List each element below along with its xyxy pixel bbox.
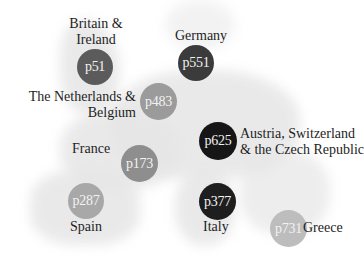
page-badge-italy[interactable]: p377 (199, 183, 236, 220)
label-line: & the Czech Republic (240, 142, 364, 158)
page-badge-netherlands-belgium[interactable]: p483 (140, 83, 177, 120)
label-line: Britain & (68, 16, 124, 32)
label-austria-switzerland-czech: Austria, Switzerland & the Czech Republi… (240, 126, 364, 158)
label-line: Ireland (68, 32, 124, 48)
label-netherlands-belgium: The Netherlands & Belgium (26, 89, 136, 121)
label-france: France (72, 141, 110, 157)
page-badge-austria-switzerland-czech[interactable]: p625 (199, 122, 237, 160)
page-badge-germany[interactable]: p551 (178, 45, 214, 81)
page-badge-spain[interactable]: p287 (68, 183, 104, 219)
page-badge-france[interactable]: p173 (121, 145, 158, 182)
page-badge-greece[interactable]: p731 (270, 210, 307, 247)
label-italy: Italy (203, 219, 229, 235)
page-badge-britain-ireland[interactable]: p51 (77, 49, 113, 85)
label-spain: Spain (70, 219, 102, 235)
label-line: The Netherlands & (26, 89, 136, 105)
label-greece: Greece (303, 220, 343, 236)
label-germany: Germany (175, 28, 227, 44)
label-britain-ireland: Britain & Ireland (68, 16, 124, 48)
label-line: Austria, Switzerland (240, 126, 364, 142)
label-line: Belgium (26, 105, 136, 121)
